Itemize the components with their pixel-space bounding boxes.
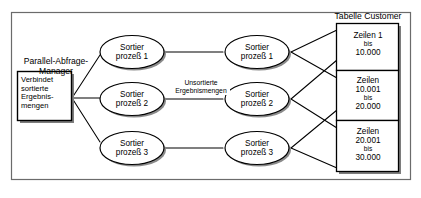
diagram-graphics [0, 0, 421, 198]
diagram-canvas: Parallel-Abfrage- Manager Verbindet sort… [0, 0, 421, 198]
right-process-1-shape [225, 36, 289, 69]
table-cell-3 [337, 121, 399, 172]
left-process-1-shape [100, 36, 164, 69]
table-cell-1 [337, 24, 399, 71]
right-process-2-shape [225, 83, 289, 116]
manager-box [18, 72, 72, 121]
middle-edge-label-backing [172, 86, 230, 95]
right-process-3-shape [225, 132, 289, 165]
left-process-3-shape [100, 132, 164, 165]
left-process-2-shape [100, 83, 164, 116]
table-cell-2 [337, 71, 399, 121]
